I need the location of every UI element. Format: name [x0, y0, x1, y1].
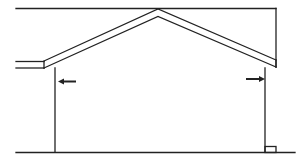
roof: [44, 9, 276, 68]
arrow-right-icon: [246, 76, 265, 82]
arrow-left-icon: [58, 79, 76, 85]
footing-block: [265, 147, 276, 153]
left-eave: [16, 62, 44, 69]
house-gable-diagram: [0, 0, 303, 160]
roof-inner-line: [44, 17, 276, 69]
ceiling-line: [16, 9, 276, 68]
